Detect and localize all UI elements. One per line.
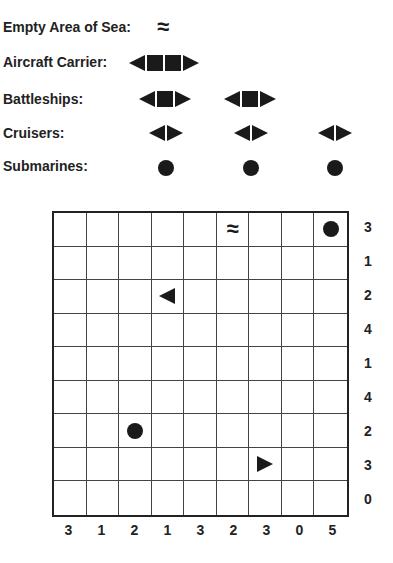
grid-cell[interactable] [87, 347, 120, 381]
grid-cell[interactable] [152, 381, 185, 415]
puzzle-grid: ≈ [52, 211, 349, 517]
grid-cell[interactable] [217, 314, 250, 348]
grid-cell[interactable] [314, 414, 347, 448]
grid-cell[interactable] [282, 414, 315, 448]
grid-cell[interactable] [119, 481, 152, 515]
grid-cell[interactable] [249, 314, 282, 348]
grid-cell[interactable] [87, 314, 120, 348]
grid-cell[interactable] [54, 347, 87, 381]
grid-cell[interactable] [217, 280, 250, 314]
row-clue: 0 [360, 491, 376, 507]
legend-submarines: Submarines: [3, 156, 88, 176]
grid-cell[interactable] [249, 381, 282, 415]
grid-cell[interactable] [282, 247, 315, 281]
row-clue: 1 [360, 355, 376, 371]
grid-cell[interactable] [54, 314, 87, 348]
grid-cell[interactable] [217, 448, 250, 482]
grid-cell[interactable] [314, 314, 347, 348]
grid-cell[interactable] [87, 381, 120, 415]
grid-cell[interactable] [87, 414, 120, 448]
grid-cell[interactable] [119, 347, 152, 381]
grid-cell[interactable] [54, 448, 87, 482]
grid-cell[interactable] [314, 247, 347, 281]
grid-cell[interactable] [314, 381, 347, 415]
grid-cell[interactable] [282, 213, 315, 247]
submarine-icon [158, 158, 174, 178]
grid-cell[interactable] [282, 314, 315, 348]
ship-end-right-icon [257, 456, 273, 472]
grid-cell[interactable] [54, 280, 87, 314]
grid-cell[interactable] [184, 414, 217, 448]
grid-cell[interactable] [249, 247, 282, 281]
grid-cell[interactable] [184, 448, 217, 482]
legend-label: Aircraft Carrier: [3, 54, 107, 70]
grid-cell[interactable] [249, 481, 282, 515]
grid-cell[interactable] [314, 448, 347, 482]
grid-cell[interactable] [217, 414, 250, 448]
grid-cell[interactable] [54, 213, 87, 247]
grid-cell[interactable] [249, 448, 282, 482]
grid-cell[interactable] [217, 347, 250, 381]
grid-cell[interactable] [119, 414, 152, 448]
grid-cell[interactable] [314, 280, 347, 314]
grid-cell[interactable] [184, 381, 217, 415]
grid-cell[interactable] [217, 247, 250, 281]
grid-cell[interactable] [119, 213, 152, 247]
grid-cell[interactable] [87, 481, 120, 515]
grid-cell[interactable] [152, 314, 185, 348]
grid-cell[interactable] [184, 481, 217, 515]
col-clue: 0 [283, 522, 316, 538]
grid-cell[interactable] [87, 448, 120, 482]
grid-cell[interactable] [217, 381, 250, 415]
grid-cell[interactable] [282, 347, 315, 381]
cruiser-icon [149, 123, 183, 143]
grid-cell[interactable] [152, 481, 185, 515]
grid-cell[interactable] [184, 247, 217, 281]
grid-cell[interactable] [87, 247, 120, 281]
grid-cell[interactable] [54, 481, 87, 515]
grid-cell[interactable] [54, 247, 87, 281]
grid-cell[interactable] [282, 381, 315, 415]
row-clue: 4 [360, 389, 376, 405]
grid-cell[interactable] [119, 381, 152, 415]
grid-cell[interactable] [152, 213, 185, 247]
grid-cell[interactable] [184, 280, 217, 314]
grid-cell[interactable] [152, 280, 185, 314]
grid-cell[interactable] [152, 247, 185, 281]
water-icon: ≈ [227, 219, 239, 239]
grid-cell[interactable] [87, 213, 120, 247]
grid-cell[interactable] [249, 280, 282, 314]
grid-cell[interactable] [152, 448, 185, 482]
grid-cell[interactable] [282, 448, 315, 482]
grid-cell[interactable] [314, 347, 347, 381]
grid-cell[interactable] [87, 280, 120, 314]
col-clue: 3 [184, 522, 217, 538]
grid-cell[interactable] [119, 314, 152, 348]
grid-cell[interactable] [282, 280, 315, 314]
grid-cell[interactable] [282, 481, 315, 515]
aircraft-carrier-icon [129, 53, 199, 73]
grid-cell[interactable] [314, 481, 347, 515]
grid-cell[interactable] [152, 347, 185, 381]
col-clue: 1 [85, 522, 118, 538]
cruiser-icon [318, 123, 352, 143]
grid-cell[interactable] [249, 213, 282, 247]
grid-cell[interactable] [119, 247, 152, 281]
row-clue: 2 [360, 423, 376, 439]
battleship-icon [139, 89, 191, 109]
grid-cell[interactable] [184, 347, 217, 381]
grid-cell[interactable] [184, 213, 217, 247]
grid-cell[interactable] [249, 414, 282, 448]
col-clue: 2 [217, 522, 250, 538]
grid-cell[interactable]: ≈ [217, 213, 250, 247]
grid-cell[interactable] [119, 448, 152, 482]
grid-cell[interactable] [184, 314, 217, 348]
grid-cell[interactable] [54, 381, 87, 415]
grid-cell[interactable] [54, 414, 87, 448]
grid-cell[interactable] [314, 213, 347, 247]
grid-cell[interactable] [152, 414, 185, 448]
grid-cell[interactable] [249, 347, 282, 381]
grid-cell[interactable] [217, 481, 250, 515]
legend-label: Cruisers: [3, 125, 64, 141]
grid-cell[interactable] [119, 280, 152, 314]
